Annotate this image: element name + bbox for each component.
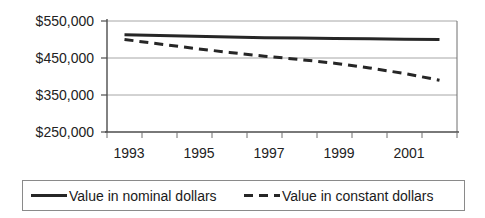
x-tick-label: 1995 (169, 145, 229, 161)
legend-swatch-solid-line-icon (31, 194, 67, 197)
y-tick-label: $550,000 (4, 13, 94, 29)
x-axis-ticks (107, 132, 457, 138)
series-line-constant (125, 40, 440, 81)
chart-legend: Value in nominal dollars Value in consta… (22, 180, 465, 211)
series-line-nominal (125, 35, 440, 40)
x-tick-label: 1999 (309, 145, 369, 161)
legend-label-constant: Value in constant dollars (282, 188, 434, 204)
x-tick-label: 1993 (99, 145, 159, 161)
legend-swatch-dashed-line-icon (244, 194, 280, 197)
x-tick-label: 1997 (239, 145, 299, 161)
x-tick-label: 2001 (379, 145, 439, 161)
y-tick-label: $350,000 (4, 87, 94, 103)
legend-entry-nominal: Value in nominal dollars (31, 181, 217, 210)
y-tick-label: $250,000 (4, 124, 94, 140)
y-axis-ticks (101, 21, 107, 132)
y-tick-label: $450,000 (4, 50, 94, 66)
chart-figure: $550,000 $450,000 $350,000 $250,000 1993… (0, 0, 485, 218)
legend-entry-constant: Value in constant dollars (244, 181, 434, 210)
legend-label-nominal: Value in nominal dollars (69, 188, 217, 204)
